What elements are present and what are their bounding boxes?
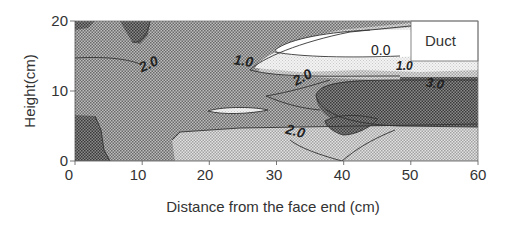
duct-annotation: Duct	[411, 21, 478, 61]
x-axis-title: Distance from the face end (cm)	[166, 198, 379, 215]
contour-label-1-0-right: 1.0	[396, 59, 413, 73]
x-tick-50: 50	[402, 166, 419, 183]
y-tick-10: 10	[51, 82, 68, 99]
contour-label-0-0: 0.0	[371, 42, 391, 58]
x-axis: 0 10 20 30 40 50 60 Distance from the fa…	[65, 161, 487, 215]
contour-label-1-0-top: 1.0	[233, 51, 255, 70]
x-tick-10: 10	[130, 166, 147, 183]
y-axis-title: Height(cm)	[21, 54, 38, 127]
x-tick-40: 40	[334, 166, 351, 183]
x-tick-30: 30	[266, 166, 283, 183]
x-tick-60: 60	[470, 166, 487, 183]
x-tick-20: 20	[197, 166, 214, 183]
y-tick-20: 20	[51, 12, 68, 29]
contour-chart: 2.0 1.0 0.0 1.0 3.0 2.0 2.0 Duct 20 10 0…	[0, 0, 513, 228]
x-tick-0: 0	[65, 166, 73, 183]
y-axis: 20 10 0 Height(cm)	[21, 12, 75, 169]
duct-label: Duct	[425, 32, 457, 49]
